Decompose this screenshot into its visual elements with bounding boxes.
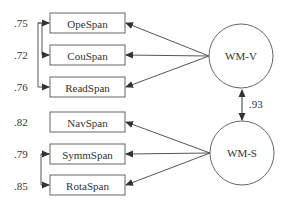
observed-couspan: CouSpan — [50, 45, 125, 65]
loading-rotaspan: .85 — [14, 180, 28, 192]
loading-readspan: .76 — [14, 81, 28, 93]
observed-symmspan: SymmSpan — [50, 144, 125, 164]
observed-label: RotaSpan — [66, 180, 109, 192]
latent-label: WM-S — [227, 147, 257, 159]
latent-wm-v: WM-V — [209, 24, 273, 88]
loading-opespan: .75 — [14, 17, 28, 29]
observed-readspan: ReadSpan — [50, 77, 125, 97]
observed-label: OpeSpan — [67, 18, 108, 30]
observed-navspan: NavSpan — [50, 112, 125, 132]
latent-label: WM-V — [225, 50, 257, 62]
sem-diagram: OpeSpan CouSpan ReadSpan NavSpan SymmSpa… — [0, 0, 289, 211]
latent-wm-s: WM-S — [210, 121, 274, 185]
observed-rotaspan: RotaSpan — [50, 175, 125, 195]
error-covariance-spatial — [41, 154, 49, 185]
loading-symmspan: .79 — [14, 148, 28, 160]
error-covariance-verbal — [38, 23, 49, 87]
loading-couspan: .72 — [14, 49, 28, 61]
observed-opespan: OpeSpan — [50, 13, 125, 33]
correlation-value: .93 — [249, 98, 263, 110]
observed-label: SymmSpan — [62, 149, 113, 161]
factor-paths-wmv — [126, 23, 209, 87]
observed-label: NavSpan — [67, 117, 108, 129]
factor-paths-wms — [126, 122, 210, 185]
observed-label: ReadSpan — [65, 82, 110, 94]
observed-label: CouSpan — [67, 50, 108, 62]
loading-navspan: .82 — [14, 116, 28, 128]
